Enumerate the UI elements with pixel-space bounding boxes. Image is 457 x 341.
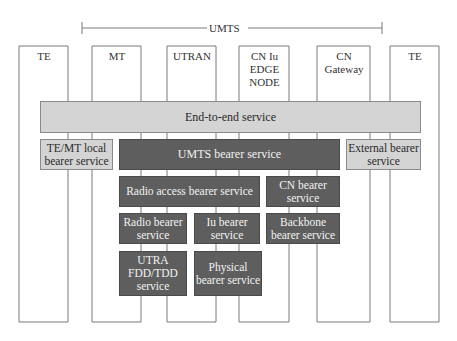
column-label-mt: MT xyxy=(92,50,142,63)
column-frame-te-right xyxy=(390,46,439,322)
external-bearer-service-box: External bearer service xyxy=(346,139,421,170)
column-frame-te-left xyxy=(19,46,68,322)
te-mt-local-bearer-service-box: TE/MT local bearer service xyxy=(40,139,113,170)
utra-fdd-tdd-service-box: UTRA FDD/TDD service xyxy=(119,251,187,296)
column-label-cn-iu-edge-node: CN Iu EDGE NODE xyxy=(239,50,290,89)
end-to-end-service-box: End-to-end service xyxy=(40,101,421,133)
umts-bearer-service-box: UMTS bearer service xyxy=(119,139,340,170)
radio-access-bearer-service-box: Radio access bearer service xyxy=(119,176,260,207)
cn-bearer-service-box: CN bearer service xyxy=(266,176,340,207)
radio-bearer-service-box: Radio bearer service xyxy=(119,213,187,244)
physical-bearer-service-box: Physical bearer service xyxy=(194,251,262,296)
backbone-bearer-service-box: Backbone bearer service xyxy=(266,213,340,244)
column-label-te-right: TE xyxy=(390,50,440,63)
umts-bearer-architecture-diagram: TE MT UTRAN CN Iu EDGE NODE CN Gateway T… xyxy=(0,0,457,341)
column-label-cn-gateway: CN Gateway xyxy=(317,50,371,76)
column-label-te-left: TE xyxy=(19,50,69,63)
iu-bearer-service-box: Iu bearer service xyxy=(194,213,260,244)
column-label-utran: UTRAN xyxy=(167,50,217,63)
umts-scope-label: UMTS xyxy=(208,22,241,34)
